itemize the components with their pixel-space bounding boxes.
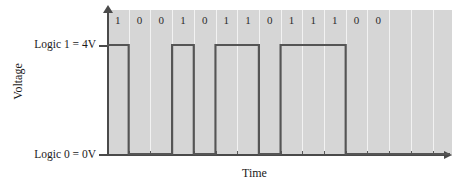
bit-label: 0 [151,14,171,26]
bit-label: 1 [281,14,301,26]
y-axis-title: Voltage [11,42,26,122]
bit-label: 0 [368,14,388,26]
bit-label: 1 [238,14,258,26]
bit-label: 0 [130,14,150,26]
y-tick-label-low: Logic 0 = 0V [34,148,96,160]
bit-label: 0 [195,14,215,26]
logic-high-level-marker [99,45,108,47]
bit-label: 1 [216,14,236,26]
y-axis-line [107,12,109,156]
x-axis-line [107,154,445,156]
gridline [433,10,434,156]
x-axis-arrow-icon [444,151,452,159]
gridline [324,10,325,156]
y-axis-arrow-icon [103,5,113,13]
bit-label: 1 [108,14,128,26]
plot-background [107,10,452,156]
gridline [172,10,173,156]
bit-label: 0 [347,14,367,26]
gridline [411,10,412,156]
gridline [259,10,260,156]
bit-label: 1 [173,14,193,26]
gridline [194,10,195,156]
gridline [389,10,390,156]
gridline [346,10,347,156]
gridline [129,10,130,156]
gridline [367,10,368,156]
bit-label: 1 [303,14,323,26]
gridline [237,10,238,156]
y-tick-label-high: Logic 1 = 4V [34,38,96,50]
gridline [281,10,282,156]
logic-low-level-marker [99,154,108,156]
bit-label: 1 [325,14,345,26]
gridline [150,10,151,156]
bit-label: 0 [260,14,280,26]
digital-signal-diagram: 1001011011100 Logic 1 = 4V Logic 0 = 0V … [0,0,462,194]
x-axis-title: Time [242,166,267,181]
gridline [302,10,303,156]
gridline [216,10,217,156]
